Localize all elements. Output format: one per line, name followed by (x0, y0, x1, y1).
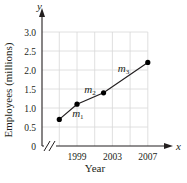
y-tick-label: 0.5 (24, 123, 36, 133)
y-axis-variable: y (36, 0, 42, 12)
data-point (57, 117, 62, 122)
x-tick-label: 2007 (138, 152, 157, 162)
y-axis-label: Employees (millions) (2, 42, 15, 137)
x-axis-arrow-icon (164, 143, 173, 149)
line-chart: y x 00.51.01.52.02.53.0 199920032007 Yea… (0, 0, 187, 183)
axis-break-icon (44, 140, 56, 152)
y-tick-label: 3.0 (24, 28, 36, 38)
y-tick-label: 0 (31, 142, 36, 152)
y-tick-label: 1.5 (24, 85, 36, 95)
data-points (57, 60, 151, 122)
x-tick-label: 1999 (68, 152, 87, 162)
segment-label: m3 (118, 62, 130, 76)
x-tick-labels: 199920032007 (68, 152, 158, 162)
y-tick-label: 1.0 (24, 104, 36, 114)
segment-label: m1 (72, 107, 84, 121)
y-tick-label: 2.5 (24, 47, 36, 57)
segment-labels: m1m2m3 (72, 62, 129, 121)
data-point (145, 60, 150, 65)
x-axis-variable: x (175, 140, 181, 152)
y-tick-labels: 00.51.01.52.02.53.0 (24, 28, 36, 152)
x-axis-label: Year (85, 162, 106, 174)
data-point (101, 90, 106, 95)
x-tick-label: 2003 (103, 152, 122, 162)
axes: y x (36, 0, 181, 152)
y-tick-label: 2.0 (24, 66, 36, 76)
